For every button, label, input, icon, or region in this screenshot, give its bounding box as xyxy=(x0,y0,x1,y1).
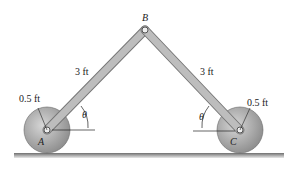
label-b: B xyxy=(142,12,148,23)
length-bc-label: 3 ft xyxy=(200,66,214,77)
label-c: C xyxy=(230,136,237,147)
length-ab-label: 3 ft xyxy=(75,66,89,77)
link-bc xyxy=(145,30,240,130)
pin-b xyxy=(142,27,148,33)
angle-a-label: θ xyxy=(82,109,87,120)
radius-c-label: 0.5 ft xyxy=(247,97,268,108)
ground xyxy=(14,153,284,158)
label-a: A xyxy=(38,136,44,147)
radius-a-label: 0.5 ft xyxy=(19,93,40,104)
linkage-diagram: B A C 3 ft 3 ft 0.5 ft 0.5 ft θ θ xyxy=(0,0,288,169)
angle-c-label: θ xyxy=(199,111,204,122)
link-ab xyxy=(47,30,145,130)
